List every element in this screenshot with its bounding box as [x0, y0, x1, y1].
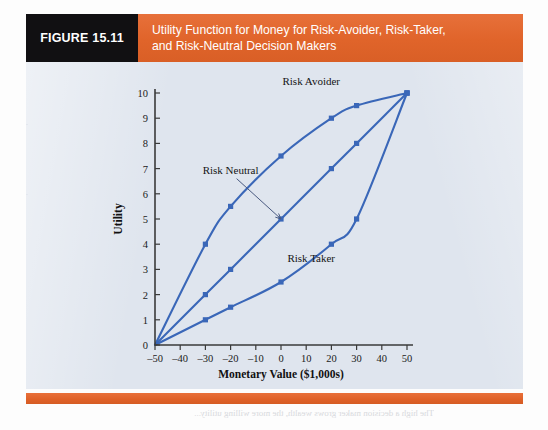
x-axis-tick-label: –30 [197, 353, 214, 364]
y-axis-tick-label: 3 [143, 264, 148, 275]
data-point-marker [228, 204, 233, 209]
y-axis-tick-label: 8 [143, 138, 148, 149]
x-axis-tick-label: –40 [171, 353, 188, 364]
data-point-marker [329, 116, 334, 121]
x-axis-tick-label: 10 [301, 353, 312, 364]
figure-number-badge: FIGURE 15.11 [26, 14, 138, 62]
x-axis-tick-label: 30 [351, 353, 362, 364]
data-point-marker [203, 317, 208, 322]
y-axis-tick-label: 6 [143, 189, 148, 200]
y-axis-tick-label: 1 [143, 315, 148, 326]
bottom-accent-rule [26, 393, 523, 404]
x-axis-tick-label: 40 [377, 353, 388, 364]
y-axis-tick-label: 5 [143, 214, 148, 225]
x-axis-tick-label: 20 [326, 353, 337, 364]
data-point-marker [203, 292, 208, 297]
x-axis-tick-label: –10 [247, 353, 264, 364]
figure-caption-line-2: and Risk-Neutral Decision Makers [152, 38, 523, 54]
x-axis-tick-label: 0 [278, 353, 283, 364]
data-point-marker [203, 242, 208, 247]
data-point-marker [278, 279, 283, 284]
x-axis-tick-label: –50 [146, 353, 163, 364]
bleed-through-text: The high a decision maker grows wealth, … [34, 408, 434, 418]
data-point-marker [354, 141, 359, 146]
series-label: Risk Neutral [203, 164, 259, 176]
data-point-marker [278, 153, 283, 158]
x-axis-tick-label: 50 [402, 353, 413, 364]
data-point-marker [354, 103, 359, 108]
data-point-marker [354, 216, 359, 221]
data-point-marker [228, 305, 233, 310]
x-axis-title: Monetary Value ($1,000s) [218, 368, 344, 381]
figure-caption-line-1: Utility Function for Money for Risk-Avoi… [152, 22, 523, 38]
data-point-markers [203, 90, 410, 322]
data-point-marker [329, 242, 334, 247]
data-point-marker [329, 166, 334, 171]
utility-function-chart: –50–40–30–20–1001020304050012345678910Mo… [26, 62, 523, 389]
y-axis-tick-label: 7 [143, 164, 148, 175]
series-label: Risk Taker [287, 252, 335, 264]
figure-header: FIGURE 15.11 Utility Function for Money … [26, 14, 523, 62]
annotation-leader-line [237, 179, 281, 219]
figure-caption: Utility Function for Money for Risk-Avoi… [138, 14, 523, 62]
chart-container: –50–40–30–20–1001020304050012345678910Mo… [26, 62, 523, 389]
data-point-marker [404, 90, 409, 95]
page-background: FIGURE 15.11 Utility Function for Money … [0, 0, 548, 430]
y-axis-title: Utility [112, 203, 125, 235]
data-point-marker [228, 267, 233, 272]
y-axis-tick-label: 10 [138, 88, 149, 99]
y-axis-tick-label: 4 [143, 239, 149, 250]
x-axis-tick-label: –20 [222, 353, 239, 364]
y-axis-tick-label: 9 [143, 113, 148, 124]
series-labels-group: Risk AvoiderRisk TakerRisk Neutral [203, 75, 341, 263]
y-axis-tick-label: 0 [143, 340, 148, 351]
y-axis-tick-label: 2 [143, 290, 148, 301]
series-label: Risk Avoider [282, 75, 340, 87]
